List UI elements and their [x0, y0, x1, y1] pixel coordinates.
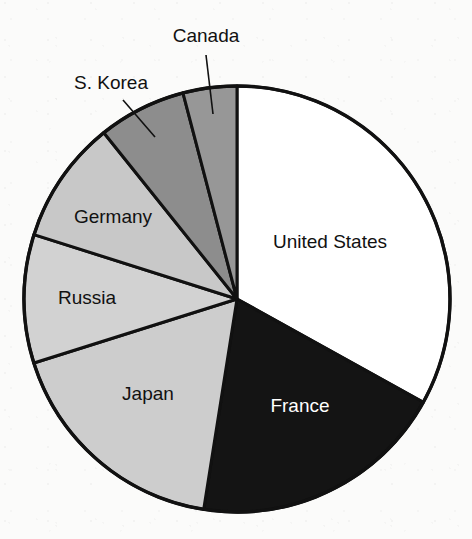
slice-label-canada: Canada	[173, 25, 240, 46]
slice-label-united-states: United States	[273, 231, 387, 252]
slice-label-russia: Russia	[58, 287, 117, 308]
slice-label-japan: Japan	[122, 383, 174, 404]
slice-label-france: France	[270, 395, 329, 416]
slice-label-s-korea: S. Korea	[74, 72, 148, 93]
pie-chart-figure: United StatesFranceJapanRussiaGermanyS. …	[0, 0, 472, 539]
pie-chart-canvas: United StatesFranceJapanRussiaGermanyS. …	[0, 0, 472, 539]
slice-label-germany: Germany	[74, 206, 153, 227]
